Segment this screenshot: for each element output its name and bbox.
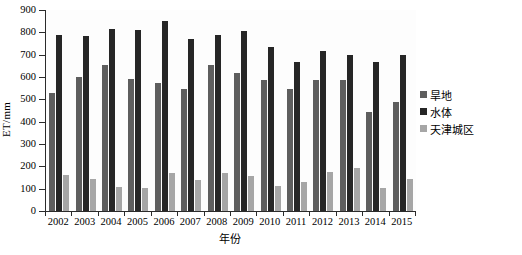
bar-group — [205, 10, 231, 211]
bar — [169, 173, 175, 211]
bar — [400, 55, 406, 211]
bar-group — [152, 10, 178, 211]
bar-group — [72, 10, 98, 211]
bar-group — [46, 10, 72, 211]
bar — [116, 187, 122, 211]
y-axis-tick-label: 100 — [4, 184, 36, 194]
legend-label: 水体 — [430, 104, 452, 120]
legend-label: 旱地 — [430, 87, 452, 103]
bar-group — [178, 10, 204, 211]
legend-label: 天津城区 — [430, 121, 474, 137]
bar — [407, 179, 413, 211]
bar — [268, 47, 274, 211]
bar-group — [125, 10, 151, 211]
bar — [340, 80, 346, 211]
bar — [287, 89, 293, 211]
bar-group — [257, 10, 283, 211]
bar — [294, 62, 300, 211]
y-axis-tick-label: 600 — [4, 72, 36, 82]
bar — [313, 80, 319, 211]
bar — [208, 65, 214, 211]
bar — [327, 172, 333, 211]
bar — [76, 77, 82, 211]
bar — [49, 93, 55, 211]
legend-item[interactable]: 旱地 — [420, 86, 520, 103]
bar-group — [231, 10, 257, 211]
bar-group — [337, 10, 363, 211]
bar — [234, 73, 240, 211]
y-axis-tick-label: 300 — [4, 139, 36, 149]
bar-group — [389, 10, 415, 211]
bar — [380, 188, 386, 211]
bar — [393, 102, 399, 211]
bar — [275, 186, 281, 211]
bar — [162, 21, 168, 211]
bar — [320, 51, 326, 211]
bar — [56, 35, 62, 211]
bar — [90, 179, 96, 211]
bar-groups — [46, 10, 416, 211]
bar — [181, 89, 187, 211]
y-axis-tick-label: 200 — [4, 161, 36, 171]
bar — [222, 173, 228, 211]
y-axis-tick-label: 0 — [4, 206, 36, 216]
legend-item[interactable]: 天津城区 — [420, 120, 520, 137]
legend-swatch-icon — [420, 91, 427, 98]
bar-group — [310, 10, 336, 211]
bar — [109, 29, 115, 211]
bar — [188, 39, 194, 211]
bar — [347, 55, 353, 211]
bar — [102, 65, 108, 211]
y-axis-tick-label: 400 — [4, 117, 36, 127]
bar — [215, 35, 221, 211]
bar — [366, 112, 372, 211]
bar — [83, 36, 89, 211]
bar — [142, 188, 148, 211]
legend-swatch-icon — [420, 108, 427, 115]
y-axis-tick-label: 700 — [4, 50, 36, 60]
bar — [135, 30, 141, 211]
x-axis-title: 年份 — [0, 230, 460, 246]
bar — [195, 180, 201, 211]
bar — [63, 175, 69, 211]
legend-item[interactable]: 水体 — [420, 103, 520, 120]
y-axis-tick-label: 500 — [4, 94, 36, 104]
bar — [155, 83, 161, 211]
bar — [301, 182, 307, 211]
bar — [261, 80, 267, 211]
bar — [248, 176, 254, 211]
legend: 旱地水体天津城区 — [420, 86, 520, 137]
y-axis-tick-label: 800 — [4, 27, 36, 37]
bar-group — [284, 10, 310, 211]
bar — [241, 31, 247, 211]
bar-group — [363, 10, 389, 211]
bar — [354, 168, 360, 211]
bar — [128, 79, 134, 211]
plot-area — [45, 10, 416, 212]
bar — [373, 62, 379, 211]
x-axis-tick-label: 2015 — [385, 216, 419, 228]
bar-chart: ET/mm 0100200300400500600700800900 20022… — [0, 0, 522, 255]
y-axis-tick-label: 900 — [4, 5, 36, 15]
legend-swatch-icon — [420, 125, 427, 132]
bar-group — [99, 10, 125, 211]
